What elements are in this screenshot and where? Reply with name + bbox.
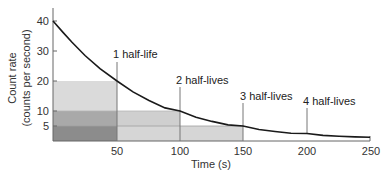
x-tick-150: 150 bbox=[234, 145, 252, 157]
x-tick-100: 100 bbox=[171, 145, 189, 157]
annotation-4-half-lives: 4 half-lives bbox=[303, 95, 356, 107]
x-tick-250: 250 bbox=[362, 145, 380, 157]
shaded-regions bbox=[53, 81, 243, 141]
y-tick-40: 40 bbox=[37, 15, 49, 27]
annotation-2-half-lives: 2 half-lives bbox=[176, 74, 229, 86]
half-life-chart: 40 30 20 10 5 50 100 150 200 250 Time (s… bbox=[0, 0, 387, 178]
x-tick-50: 50 bbox=[111, 145, 123, 157]
region-overlap-5 bbox=[53, 126, 117, 141]
y-axis-label-line2: (counts per second) bbox=[20, 29, 32, 126]
y-tick-20: 20 bbox=[37, 75, 49, 87]
y-axis-label-line1: Count rate bbox=[6, 52, 18, 103]
y-tick-5: 5 bbox=[43, 120, 49, 132]
x-axis-label: Time (s) bbox=[191, 158, 231, 170]
y-tick-10: 10 bbox=[37, 105, 49, 117]
y-tick-30: 30 bbox=[37, 45, 49, 57]
x-tick-200: 200 bbox=[298, 145, 316, 157]
annotation-3-half-lives: 3 half-lives bbox=[240, 90, 293, 102]
annotation-1-half-life: 1 half-life bbox=[113, 48, 158, 60]
